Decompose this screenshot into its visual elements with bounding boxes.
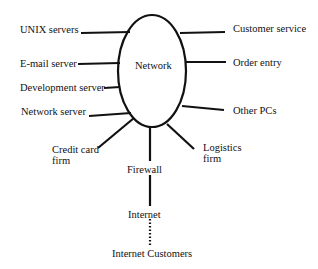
- credit-card-firm-label-line1: Credit card: [52, 144, 99, 155]
- edge-logistics-firm: [167, 124, 194, 149]
- credit-card-firm-label-line2: firm: [52, 155, 70, 166]
- other-pcs-label: Other PCs: [233, 105, 276, 116]
- edge-network-server: [89, 113, 131, 116]
- edge-unix-servers: [81, 32, 130, 33]
- order-entry-label: Order entry: [233, 57, 282, 68]
- unix-servers-label: UNIX servers: [20, 24, 79, 35]
- edge-other-pcs: [182, 106, 224, 110]
- logistics-firm-label-line1: Logistics: [203, 142, 242, 153]
- internet-label: Internet: [128, 209, 161, 220]
- email-server-label: E-mail server: [20, 58, 77, 69]
- logistics-firm-label-line2: firm: [203, 153, 221, 164]
- network-label: Network: [135, 60, 172, 71]
- edge-customer-service: [180, 32, 225, 33]
- development-server-label: Development server: [20, 82, 105, 93]
- network-server-label: Network server: [21, 106, 86, 117]
- edge-email-server: [78, 63, 120, 64]
- edge-development-server: [104, 87, 120, 88]
- edge-credit-card-firm: [98, 118, 134, 148]
- internet-customers-label: Internet Customers: [112, 248, 192, 259]
- customer-service-label: Customer service: [233, 23, 306, 34]
- diagram-canvas: [0, 0, 318, 269]
- firewall-label: Firewall: [127, 164, 162, 175]
